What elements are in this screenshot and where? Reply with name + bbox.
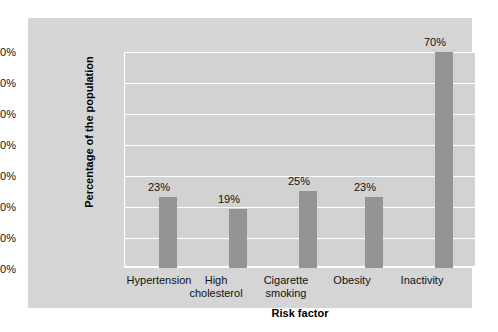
x-axis-title: Risk factor bbox=[124, 307, 476, 319]
gridline-50 bbox=[125, 114, 475, 115]
gridline-60 bbox=[125, 83, 475, 84]
bar-value-label-obesity: 23% bbox=[335, 182, 395, 193]
chart-panel: Percentage of the population 70% 60% 50%… bbox=[28, 18, 472, 308]
y-tick-label-50: 50% bbox=[0, 109, 16, 120]
bar-obesity bbox=[365, 197, 383, 268]
x-tick-label-inactivity: Inactivity bbox=[387, 274, 457, 287]
bar-value-label-cigarette-smoking: 25% bbox=[269, 176, 329, 187]
y-axis-title: Percentage of the population bbox=[83, 22, 95, 242]
y-tick-label-0: 0% bbox=[0, 264, 16, 275]
x-tick-label-high-cholesterol: High cholesterol bbox=[181, 274, 251, 300]
bar-value-label-high-cholesterol: 19% bbox=[199, 194, 259, 205]
bar-value-label-inactivity: 70% bbox=[405, 37, 465, 48]
bar-high-cholesterol bbox=[229, 209, 247, 268]
bar-value-label-hypertension: 23% bbox=[129, 182, 189, 193]
bar-hypertension bbox=[159, 197, 177, 268]
bar-inactivity bbox=[435, 52, 453, 268]
y-tick-label-30: 30% bbox=[0, 171, 16, 182]
bar-cigarette-smoking bbox=[299, 191, 317, 268]
y-tick-label-20: 20% bbox=[0, 202, 16, 213]
plot-area bbox=[124, 52, 476, 268]
y-tick-label-40: 40% bbox=[0, 140, 16, 151]
gridline-40 bbox=[125, 145, 475, 146]
gridline-70 bbox=[125, 52, 475, 53]
y-tick-label-70: 70% bbox=[0, 47, 16, 58]
y-tick-label-60: 60% bbox=[0, 78, 16, 89]
x-tick-label-cigarette-smoking: Cigarette smoking bbox=[251, 274, 321, 300]
bar-chart-figure: Percentage of the population 70% 60% 50%… bbox=[0, 0, 498, 332]
y-tick-label-10: 10% bbox=[0, 233, 16, 244]
x-tick-label-obesity: Obesity bbox=[317, 274, 387, 287]
